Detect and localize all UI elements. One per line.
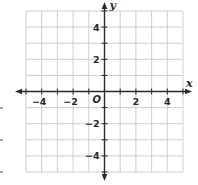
x-tick-label: 2 [133, 96, 140, 107]
x-axis-left-arrow-icon [15, 89, 22, 95]
coordinate-plane: −4−22442−2−4 x y O [0, 0, 198, 185]
x-axis-right-arrow-icon [185, 89, 192, 95]
margin-marks [0, 108, 3, 172]
x-tick-label: −4 [32, 96, 47, 107]
y-axis-up-arrow-icon [102, 2, 108, 9]
y-tick-label: −4 [85, 150, 100, 161]
y-axis-label: y [109, 0, 118, 12]
x-axis-label: x [185, 77, 193, 90]
y-axis-down-arrow-icon [102, 174, 108, 181]
x-tick-label: −2 [63, 96, 78, 107]
y-tick-label: −2 [85, 118, 100, 129]
x-tick-label: 4 [164, 96, 171, 107]
origin-label: O [93, 94, 102, 105]
y-tick-label: 4 [93, 22, 100, 33]
y-tick-label: 2 [93, 54, 100, 65]
